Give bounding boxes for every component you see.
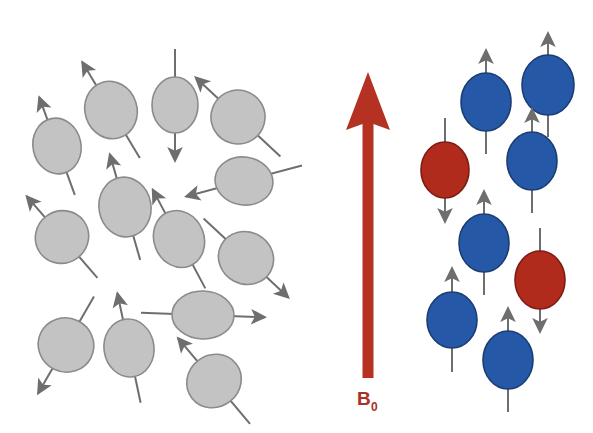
spin-alignment-figure: B 0 — [0, 0, 593, 433]
figure-canvas: B 0 — [0, 0, 593, 433]
spin-nucleus — [459, 214, 509, 272]
spin-nucleus — [152, 77, 198, 133]
b0-label: B — [357, 388, 371, 409]
spin-nucleus — [427, 292, 477, 348]
spin-nucleus — [522, 55, 574, 115]
b0-label-subscript: 0 — [371, 400, 378, 414]
spin-nucleus — [507, 132, 557, 190]
spin-nucleus — [483, 331, 533, 389]
spin-nucleus — [515, 251, 565, 309]
spin-nucleus — [421, 142, 469, 198]
spin-nucleus — [461, 73, 511, 131]
